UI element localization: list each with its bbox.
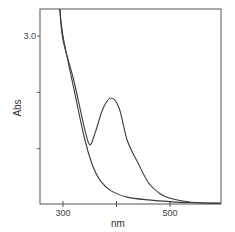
plot-frame — [40, 9, 221, 204]
x-tick-label-500: 500 — [162, 208, 177, 218]
x-axis-label: nm — [111, 218, 125, 229]
spectrum-line-baseline — [60, 9, 221, 203]
y-axis-label: Abs — [12, 99, 23, 116]
absorbance-chart: 3.0 300 500 nm Abs — [0, 0, 235, 232]
spectrum-line-with-band — [60, 9, 221, 203]
y-tick-label-3: 3.0 — [23, 31, 36, 41]
spectra-lines — [60, 9, 221, 203]
x-tick-label-300: 300 — [55, 208, 70, 218]
